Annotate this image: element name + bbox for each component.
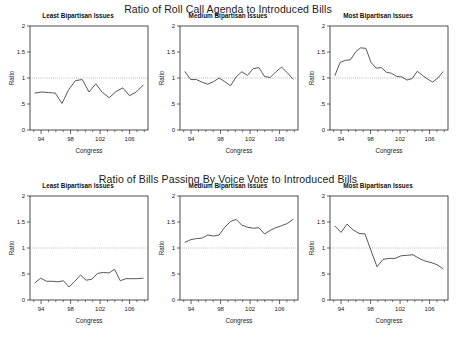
y-tick-label: 2 — [22, 193, 26, 199]
y-tick-label: 1 — [322, 75, 326, 81]
x-axis-title: Congress — [226, 317, 253, 325]
x-tick-label: 98 — [67, 136, 74, 142]
x-tick-label: 106 — [125, 306, 136, 312]
data-series-line — [185, 219, 293, 242]
y-tick-label: .5 — [170, 101, 176, 107]
x-tick-label: 98 — [217, 306, 224, 312]
y-tick-label: 1 — [22, 75, 26, 81]
x-tick-label: 106 — [425, 306, 436, 312]
x-tick-label: 94 — [338, 306, 345, 312]
data-series-line — [185, 67, 293, 86]
y-axis-title: Ratio — [8, 70, 15, 85]
y-tick-label: .5 — [170, 271, 176, 277]
y-tick-label: .5 — [20, 101, 26, 107]
x-axis-title: Congress — [376, 317, 403, 325]
data-series-line — [35, 80, 143, 104]
panel-title: Medium Bipartisan Issues — [152, 12, 304, 19]
x-tick-label: 106 — [275, 136, 286, 142]
x-tick-label: 102 — [95, 306, 106, 312]
plot-area: 0.511.529498102106CongressRatio — [2, 20, 154, 170]
y-tick-label: 1 — [322, 245, 326, 251]
y-tick-label: 1.5 — [167, 219, 176, 225]
x-tick-label: 106 — [425, 136, 436, 142]
y-axis-title: Ratio — [308, 70, 315, 85]
y-tick-label: .5 — [320, 271, 326, 277]
y-axis-title: Ratio — [158, 240, 165, 255]
y-tick-label: 0 — [22, 297, 26, 303]
panel-title: Medium Bipartisan Issues — [152, 182, 304, 189]
x-tick-label: 94 — [38, 306, 45, 312]
plot-area: 0.511.529498102106CongressRatio — [152, 190, 304, 340]
y-axis-title: Ratio — [8, 240, 15, 255]
x-tick-label: 98 — [67, 306, 74, 312]
x-tick-label: 94 — [188, 306, 195, 312]
y-tick-label: .5 — [320, 101, 326, 107]
y-tick-label: 2 — [322, 193, 326, 199]
y-tick-label: .5 — [20, 271, 26, 277]
data-series-line — [335, 224, 443, 269]
y-tick-label: 1 — [22, 245, 26, 251]
data-series-line — [35, 269, 143, 287]
x-tick-label: 98 — [367, 306, 374, 312]
y-tick-label: 2 — [172, 193, 176, 199]
plot-area: 0.511.529498102106CongressRatio — [2, 190, 154, 340]
y-tick-label: 2 — [322, 23, 326, 29]
x-tick-label: 102 — [245, 306, 256, 312]
x-tick-label: 94 — [38, 136, 45, 142]
x-tick-label: 98 — [217, 136, 224, 142]
x-tick-label: 102 — [395, 136, 406, 142]
y-tick-label: 2 — [22, 23, 26, 29]
panel-top-most: Most Bipartisan Issues 0.511.52949810210… — [302, 12, 454, 170]
y-tick-label: 0 — [172, 127, 176, 133]
chart-row-top: Ratio of Roll Call Agenda to Introduced … — [0, 0, 456, 170]
plot-area: 0.511.529498102106CongressRatio — [302, 20, 454, 170]
y-axis-title: Ratio — [158, 70, 165, 85]
panel-title: Most Bipartisan Issues — [302, 12, 454, 19]
y-tick-label: 1 — [172, 75, 176, 81]
panel-bottom-most: Most Bipartisan Issues 0.511.52949810210… — [302, 182, 454, 340]
y-tick-label: 0 — [322, 297, 326, 303]
x-tick-label: 94 — [188, 136, 195, 142]
x-tick-label: 106 — [275, 306, 286, 312]
panel-bottom-least: Least Bipartisan Issues 0.511.5294981021… — [2, 182, 154, 340]
panel-top-least: Least Bipartisan Issues 0.511.5294981021… — [2, 12, 154, 170]
x-tick-label: 94 — [338, 136, 345, 142]
y-tick-label: 1.5 — [17, 49, 26, 55]
panel-title: Least Bipartisan Issues — [2, 12, 154, 19]
panel-row-top: Least Bipartisan Issues 0.511.5294981021… — [0, 12, 456, 170]
panel-bottom-medium: Medium Bipartisan Issues 0.511.529498102… — [152, 182, 304, 340]
x-axis-title: Congress — [76, 147, 103, 155]
y-tick-label: 1.5 — [167, 49, 176, 55]
x-tick-label: 102 — [245, 136, 256, 142]
plot-area: 0.511.529498102106CongressRatio — [152, 20, 304, 170]
chart-row-bottom: Ratio of Bills Passing By Voice Vote to … — [0, 170, 456, 340]
y-tick-label: 0 — [322, 127, 326, 133]
y-tick-label: 1.5 — [317, 219, 326, 225]
panel-title: Least Bipartisan Issues — [2, 182, 154, 189]
figure-panel-grid: Ratio of Roll Call Agenda to Introduced … — [0, 0, 456, 341]
y-tick-label: 0 — [172, 297, 176, 303]
x-tick-label: 102 — [95, 136, 106, 142]
panel-top-medium: Medium Bipartisan Issues 0.511.529498102… — [152, 12, 304, 170]
y-axis-title: Ratio — [308, 240, 315, 255]
y-tick-label: 2 — [172, 23, 176, 29]
x-tick-label: 98 — [367, 136, 374, 142]
y-tick-label: 0 — [22, 127, 26, 133]
data-series-line — [335, 48, 443, 82]
y-tick-label: 1.5 — [317, 49, 326, 55]
plot-area: 0.511.529498102106CongressRatio — [302, 190, 454, 340]
x-axis-title: Congress — [76, 317, 103, 325]
y-tick-label: 1 — [172, 245, 176, 251]
x-tick-label: 106 — [125, 136, 136, 142]
x-axis-title: Congress — [226, 147, 253, 155]
panel-title: Most Bipartisan Issues — [302, 182, 454, 189]
panel-row-bottom: Least Bipartisan Issues 0.511.5294981021… — [0, 182, 456, 340]
y-tick-label: 1.5 — [17, 219, 26, 225]
x-axis-title: Congress — [376, 147, 403, 155]
x-tick-label: 102 — [395, 306, 406, 312]
